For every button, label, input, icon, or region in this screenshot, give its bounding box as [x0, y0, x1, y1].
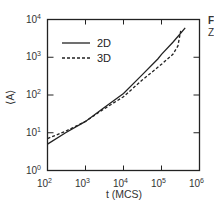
series-2d: [48, 28, 186, 144]
side-text-2: Z: [208, 27, 214, 38]
y-tick-label: 104: [26, 13, 41, 25]
x-axis-label: t (MCS): [106, 188, 142, 200]
series-3d: [48, 31, 181, 139]
y-axis-label: ⟨A⟩: [4, 89, 16, 104]
side-text-1: F: [208, 15, 214, 26]
y-tick-label: 103: [26, 50, 41, 62]
chart-canvas: 102103104105106 100101102103104 2D 3D t …: [0, 0, 214, 213]
y-tick-labels: 100101102103104: [26, 13, 41, 176]
x-tick-label: 105: [151, 177, 166, 189]
y-tick-label: 100: [26, 164, 41, 176]
y-tick-label: 102: [26, 88, 41, 100]
x-tick-label: 106: [189, 177, 204, 189]
axis-ticks: [48, 20, 200, 171]
legend: 2D 3D: [62, 37, 111, 64]
x-tick-label: 102: [37, 177, 52, 189]
y-tick-label: 101: [26, 126, 41, 138]
plot-frame: [48, 20, 200, 171]
legend-label-2d: 2D: [97, 37, 111, 49]
x-tick-label: 103: [75, 177, 90, 189]
legend-label-3d: 3D: [97, 52, 111, 64]
data-series: [48, 28, 186, 144]
